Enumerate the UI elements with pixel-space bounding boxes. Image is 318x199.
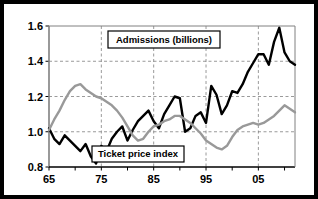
y-tick-label: 0.8 <box>28 161 43 173</box>
y-tick-label: 1.4 <box>28 55 44 67</box>
x-tick-label: 95 <box>200 173 212 185</box>
line-chart: 1.61.41.21.00.8 6575859505 Admissions (b… <box>4 4 318 199</box>
y-axis-tick-labels: 1.61.41.21.00.8 <box>28 20 44 173</box>
admissions-legend-label: Admissions (billions) <box>116 34 212 45</box>
y-tick-label: 1.2 <box>28 91 43 103</box>
chart-frame: 1.61.41.21.00.8 6575859505 Admissions (b… <box>0 0 318 199</box>
x-tick-label: 05 <box>252 173 264 185</box>
x-tick-label: 65 <box>43 173 55 185</box>
ticket-price-legend: Ticket price index <box>92 146 184 162</box>
y-tick-label: 1.6 <box>28 20 43 32</box>
x-tick-label: 85 <box>148 173 160 185</box>
ticket-price-legend-label: Ticket price index <box>98 148 179 159</box>
x-tick-label: 75 <box>95 173 107 185</box>
admissions-legend: Admissions (billions) <box>108 31 220 48</box>
y-tick-label: 1.0 <box>28 126 43 138</box>
x-axis-tick-labels: 6575859505 <box>43 173 265 185</box>
